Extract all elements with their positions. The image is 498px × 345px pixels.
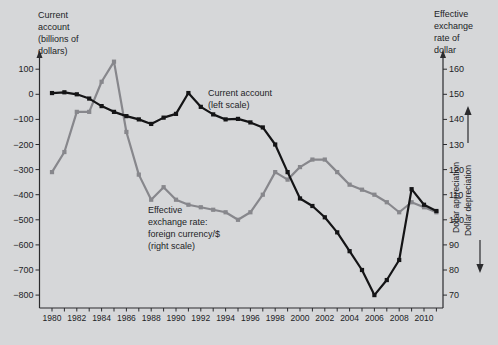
current-account-point: [323, 215, 327, 219]
current-account-point: [50, 91, 54, 95]
exchange-rate-point: [348, 183, 352, 187]
current-account-point: [360, 268, 364, 272]
x-axis-tick-label: 1986: [117, 313, 136, 323]
left-axis-tick-label: −100: [13, 114, 33, 124]
current-account-point: [100, 104, 104, 108]
current-account-point: [137, 117, 141, 121]
current-account-point: [310, 204, 314, 208]
x-axis-tick-label: 1982: [67, 313, 86, 323]
exchange-rate-line: [52, 62, 436, 220]
exchange-rate-point: [100, 80, 104, 84]
left-axis-title: Current account (billions of dollars): [38, 9, 79, 57]
current-account-point: [75, 92, 79, 96]
exchange-rate-point: [261, 193, 265, 197]
exchange-rate-point: [397, 210, 401, 214]
exchange-rate-point: [372, 193, 376, 197]
chart-figure: 1000−100−200−300−400−500−600−700−8001601…: [0, 0, 498, 345]
x-axis-tick-label: 1998: [266, 313, 285, 323]
current-account-point: [112, 110, 116, 114]
current-account-point: [174, 112, 178, 116]
exchange-rate-point: [62, 150, 66, 154]
left-axis-tick-label: −300: [13, 165, 33, 175]
x-axis-tick-label: 2000: [291, 313, 310, 323]
current-account-point: [236, 117, 240, 121]
current-account-point: [224, 117, 228, 121]
right-axis-tick-label: 160: [449, 64, 464, 74]
left-axis-tick-label: 100: [18, 64, 33, 74]
exchange-rate-point: [323, 157, 327, 161]
current-account-point: [385, 278, 389, 282]
left-axis-tick-label: −400: [13, 190, 33, 200]
x-axis-tick-label: 1988: [142, 313, 161, 323]
right-axis-tick-label: 90: [449, 240, 459, 250]
left-axis-tick-label: −800: [13, 290, 33, 300]
right-axis-tick-label: 140: [449, 114, 464, 124]
current-account-point: [410, 187, 414, 191]
current-account-point: [186, 91, 190, 95]
right-axis-title: Effective exchange rate of dollar: [434, 8, 473, 56]
x-axis-tick-label: 2010: [415, 313, 434, 323]
current-account-point: [149, 122, 153, 126]
left-axis-tick-label: −600: [13, 240, 33, 250]
current-account-point: [248, 120, 252, 124]
exchange-rate-point: [236, 218, 240, 222]
current-account-point: [335, 230, 339, 234]
current-account-point: [261, 125, 265, 129]
current-account-point: [397, 258, 401, 262]
x-axis-tick-label: 1984: [92, 313, 111, 323]
exchange-rate-point: [286, 178, 290, 182]
exchange-rate-point: [310, 157, 314, 161]
dollar-appreciation-arrow-icon: [464, 106, 471, 143]
current-account-series-label: Current account (left scale): [208, 87, 272, 111]
exchange-rate-point: [298, 165, 302, 169]
x-axis-tick-label: 1994: [216, 313, 235, 323]
x-axis-tick-label: 1992: [191, 313, 210, 323]
current-account-point: [348, 249, 352, 253]
right-axis-tick-label: 130: [449, 140, 464, 150]
exchange-rate-point: [87, 110, 91, 114]
x-axis-tick-label: 1990: [167, 313, 186, 323]
current-account-point: [62, 90, 66, 94]
current-account-point: [273, 142, 277, 146]
exchange-rate-point: [50, 170, 54, 174]
current-account-line: [52, 92, 436, 295]
left-axis-tick-label: −500: [13, 215, 33, 225]
exchange-rate-point: [174, 198, 178, 202]
exchange-rate-point: [137, 173, 141, 177]
exchange-rate-point: [248, 210, 252, 214]
x-axis-tick-label: 2002: [315, 313, 334, 323]
current-account-point: [298, 196, 302, 200]
x-axis-tick-label: 2004: [340, 313, 359, 323]
exchange-rate-point: [162, 185, 166, 189]
x-axis-tick-label: 2008: [390, 313, 409, 323]
exchange-rate-point: [75, 110, 79, 114]
x-axis-tick-label: 2006: [365, 313, 384, 323]
current-account-point: [162, 116, 166, 120]
exchange-rate-point: [124, 130, 128, 134]
exchange-rate-point: [224, 210, 228, 214]
current-account-point: [87, 96, 91, 100]
current-account-point: [372, 293, 376, 297]
exchange-rate-point: [360, 188, 364, 192]
exchange-rate-point: [149, 198, 153, 202]
exchange-rate-series-label: Effective exchange rate: foreign currenc…: [148, 204, 220, 252]
dollar-depreciation-label: Dollar depreciation: [463, 165, 474, 236]
right-axis-tick-label: 70: [449, 290, 459, 300]
current-account-point: [434, 209, 438, 213]
current-account-point: [286, 170, 290, 174]
exchange-rate-point: [273, 170, 277, 174]
dollar-appreciation-label: Dollar appreciation: [451, 162, 462, 233]
left-axis-tick-label: 0: [28, 89, 33, 99]
exchange-rate-point: [335, 170, 339, 174]
left-axis-tick-label: −200: [13, 140, 33, 150]
exchange-rate-point: [112, 60, 116, 64]
exchange-rate-point: [385, 200, 389, 204]
left-axis-tick-label: −700: [13, 265, 33, 275]
current-account-point: [124, 114, 128, 118]
current-account-point: [199, 105, 203, 109]
right-axis-tick-label: 150: [449, 89, 464, 99]
current-account-point: [422, 203, 426, 207]
x-axis-tick-label: 1996: [241, 313, 260, 323]
right-axis-tick-label: 80: [449, 265, 459, 275]
current-account-point: [211, 112, 215, 116]
